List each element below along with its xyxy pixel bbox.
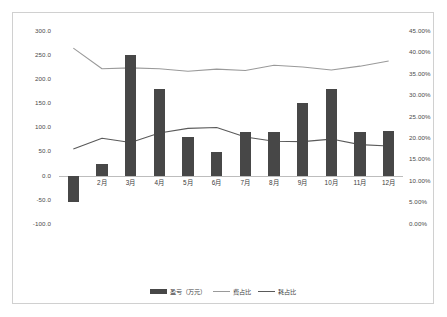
y-left-tick: 150.0 <box>17 100 51 106</box>
line-swatch-icon <box>213 291 230 292</box>
line-consumption-ratio <box>73 128 388 149</box>
x-tick-11月: 11月 <box>345 180 375 186</box>
y-left-tick: 100.0 <box>17 124 51 130</box>
x-tick-4月: 4月 <box>144 180 174 186</box>
bar-swatch-icon <box>150 289 167 294</box>
y-left-tick: 300.0 <box>17 28 51 34</box>
bar-4月 <box>154 89 165 176</box>
y-right-tick: 0.00% <box>409 221 447 227</box>
legend-label: 费占比 <box>233 289 251 295</box>
y-right-tick: 5.00% <box>409 199 447 205</box>
y-right-tick: 40.00% <box>409 49 447 55</box>
legend-label: 盈亏（万元） <box>170 289 206 295</box>
chart-container: 盈亏（万元） 费占比 耗占比 -100.0-50.00.050.0100.015… <box>12 12 434 304</box>
y-right-tick: 10.00% <box>409 178 447 184</box>
y-left-tick: 200.0 <box>17 76 51 82</box>
legend-item-consumption-ratio[interactable]: 耗占比 <box>258 289 296 295</box>
x-tick-10月: 10月 <box>316 180 346 186</box>
x-tick-3月: 3月 <box>116 180 146 186</box>
y-left-tick: 250.0 <box>17 52 51 58</box>
y-left-tick: -50.0 <box>17 197 51 203</box>
bar-6月 <box>211 152 222 176</box>
bar-12月 <box>383 131 394 175</box>
y-right-tick: 30.00% <box>409 92 447 98</box>
y-right-tick: 35.00% <box>409 71 447 77</box>
bar-2月 <box>96 164 107 176</box>
x-tick-7月: 7月 <box>230 180 260 186</box>
line-fee-ratio <box>73 48 388 71</box>
y-left-tick: 50.0 <box>17 148 51 154</box>
bar-7月 <box>240 132 251 175</box>
x-tick-5月: 5月 <box>173 180 203 186</box>
y-right-tick: 45.00% <box>409 28 447 34</box>
bar-9月 <box>297 103 308 175</box>
legend-item-fee-ratio[interactable]: 费占比 <box>213 289 251 295</box>
bar-8月 <box>268 132 279 175</box>
x-tick-12月: 12月 <box>374 180 404 186</box>
bar-11月 <box>354 132 365 175</box>
line-swatch-dark-icon <box>258 291 275 292</box>
y-left-tick: -100.0 <box>17 221 51 227</box>
legend-item-profit[interactable]: 盈亏（万元） <box>150 289 206 295</box>
line-series-layer <box>13 13 447 317</box>
x-tick-6月: 6月 <box>202 180 232 186</box>
x-tick-2月: 2月 <box>87 180 117 186</box>
y-right-tick: 15.00% <box>409 156 447 162</box>
y-left-tick: 0.0 <box>17 173 51 179</box>
y-right-tick: 20.00% <box>409 135 447 141</box>
bar-5月 <box>182 137 193 176</box>
legend-label: 耗占比 <box>278 289 296 295</box>
x-tick-8月: 8月 <box>259 180 289 186</box>
x-tick-9月: 9月 <box>288 180 318 186</box>
bar-1月 <box>68 176 79 203</box>
y-right-tick: 25.00% <box>409 114 447 120</box>
chart-legend: 盈亏（万元） 费占比 耗占比 <box>13 289 433 295</box>
bar-3月 <box>125 55 136 176</box>
bar-10月 <box>326 89 337 176</box>
